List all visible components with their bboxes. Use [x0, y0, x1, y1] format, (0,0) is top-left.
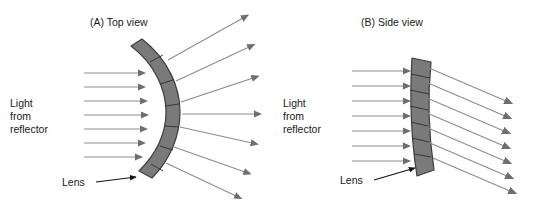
panel-a-source-label-line-2: from: [10, 110, 31, 122]
optical-lens-diagram: (A) Top view Light from reflector: [0, 0, 547, 206]
panel-b-source-label-line-3: reflector: [283, 123, 321, 135]
panel-b-lens-label: Lens: [340, 174, 363, 186]
panel-a-lens-label: Lens: [62, 176, 85, 188]
panel-a-source-label-line-1: Light: [10, 97, 33, 109]
figure-canvas: (A) Top view Light from reflector: [0, 0, 547, 206]
panel-a-source-label-line-3: reflector: [10, 123, 48, 135]
panel-b-source-label-line-2: from: [283, 110, 304, 122]
panel-b-source-label-line-1: Light: [283, 97, 306, 109]
panel-a-title: (A) Top view: [90, 16, 148, 28]
panel-b-title: (B) Side view: [361, 16, 423, 28]
